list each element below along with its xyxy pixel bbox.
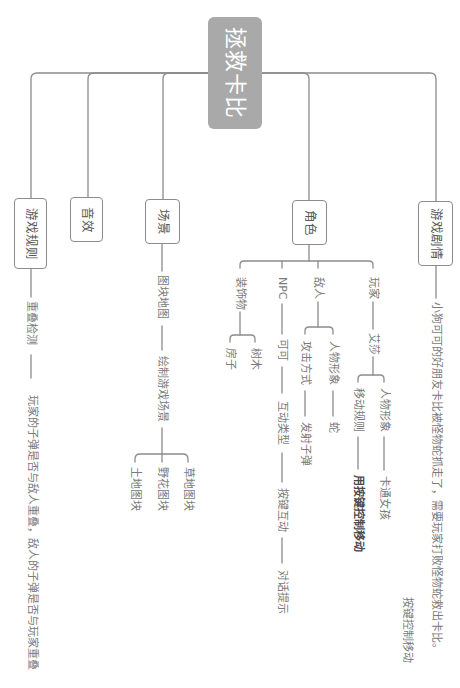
node-overlap-detection: 重叠检测 [26,301,37,345]
node-key-interaction: 按键互动 [277,488,288,532]
root-node: 拯救卡比 [208,17,262,129]
branch-sound-label: 音效 [80,207,93,233]
branch-characters: 角色 [292,200,327,245]
node-player-appearance: 人物形象 [379,388,390,432]
bracket-elsa [358,375,384,382]
node-player: 玩家 [368,277,379,299]
root-node-label: 拯救卡比 [224,27,246,119]
node-dialog-hint: 对话提示 [277,570,288,614]
bracket-decor [230,335,255,342]
bracket-characters [240,261,373,268]
node-movement-rule: 移动规则 [353,388,364,432]
node-houses: 房子 [225,348,236,370]
story-text: 小狗可可的好朋友卡比被怪物蛇抓走了，需要玩家打败怪物蛇救出卡比。 [431,302,442,654]
node-snake: 蛇 [328,422,339,433]
bracket-enemy [305,327,333,334]
branch-story-label: 游戏剧情 [429,208,442,260]
node-enemy: 敌人 [313,277,324,299]
mindmap-canvas: 拯救卡比 游戏规则 音效 场景 角色 游戏剧情 小狗可可的好朋友卡比被怪物蛇抓走… [0,0,460,688]
connector-root-story [235,73,436,201]
branch-story: 游戏剧情 [418,201,453,266]
node-tile-map: 图块地图 [157,275,168,319]
node-shoot-bullets: 发射子弹 [300,422,311,466]
node-grass-tile: 草地图块 [183,467,194,511]
branch-characters-label: 角色 [303,210,316,236]
node-attack-mode: 攻击方式 [300,341,311,385]
node-enemy-appearance: 人物形象 [328,341,339,385]
branch-scene-label: 场景 [156,209,169,235]
branch-scene: 场景 [145,199,180,244]
node-interaction-type: 互动类型 [277,401,288,445]
branch-game-rules-label: 游戏规则 [24,208,37,260]
story-note: 按键控制移动 [402,597,413,663]
branch-game-rules: 游戏规则 [14,198,47,269]
node-cartoon-girl: 卡通女孩 [379,476,390,520]
node-overlap-description: 玩家的子弹是否与敌人重叠，敌人的子弹是否与玩家重叠 [27,395,38,670]
node-keke: 可可 [277,339,288,361]
node-flower-tile: 野花图块 [157,467,168,511]
node-trees: 树木 [250,348,261,370]
node-soil-tile: 土地图块 [130,467,141,511]
connector-root-rules [31,73,235,198]
node-elsa: 艾莎 [368,333,379,355]
node-decorations: 装饰物 [235,277,246,310]
node-draw-scene: 绘制游戏场景 [157,356,168,422]
branch-sound: 音效 [70,197,103,242]
node-npc: NPC [277,277,288,300]
node-key-movement: 用按键控制移动 [353,475,364,552]
